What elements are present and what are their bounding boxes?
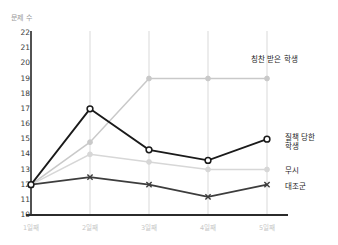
series-marker-0-1	[88, 140, 93, 145]
series-label-praised: 칭찬 받은 학생	[251, 55, 298, 64]
series-marker-0-2	[147, 76, 152, 81]
series-label-scolded-line1: 질책 당한	[285, 133, 315, 142]
series-marker-0-4	[265, 76, 270, 81]
series-marker-1-1	[87, 106, 93, 112]
series-marker-2-4	[265, 167, 270, 172]
plot-area	[0, 0, 338, 245]
series-marker-1-3	[205, 158, 211, 164]
series-label-scolded: 질책 당한 학생	[285, 133, 315, 152]
series-marker-0-3	[206, 76, 211, 81]
series-marker-1-4	[264, 136, 270, 142]
x-axis-tick-3: 3일째	[141, 222, 157, 232]
x-axis-tick-2: 2일째	[82, 222, 98, 232]
x-axis-tick-1: 1일째	[23, 222, 39, 232]
series-marker-2-1	[88, 152, 93, 157]
line-chart: 문제 수 10111213141516171819202122 1일째2일째3일…	[0, 0, 338, 245]
series-label-ignored: 무시	[285, 166, 299, 175]
series-label-scolded-line2: 학생	[285, 142, 299, 151]
series-marker-1-2	[146, 147, 152, 153]
series-marker-2-2	[147, 160, 152, 165]
x-axis-tick-5: 5일째	[259, 222, 275, 232]
series-marker-2-3	[206, 167, 211, 172]
series-label-control: 대조군	[285, 182, 306, 191]
x-axis-tick-4: 4일째	[200, 222, 216, 232]
series-marker-1-0	[28, 182, 34, 188]
